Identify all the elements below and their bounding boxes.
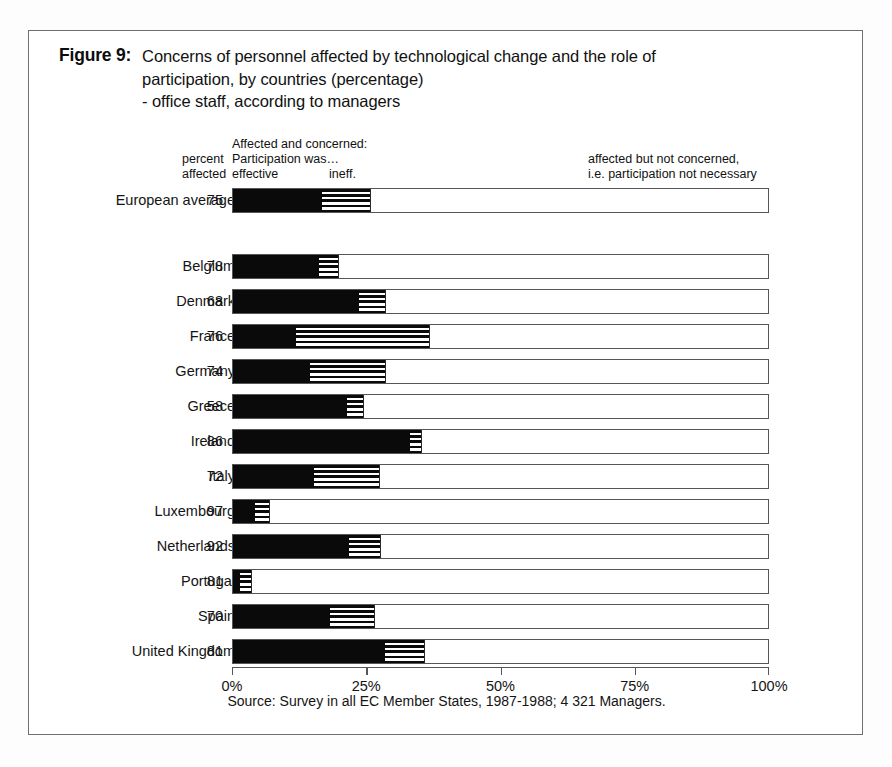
legend-participation-was: Participation was… <box>232 152 339 167</box>
chart-row: Greece58 <box>29 392 864 422</box>
bar-segment-effective <box>233 640 385 663</box>
bar-segment-ineffective <box>319 255 339 278</box>
row-percent-affected: 70 <box>195 608 223 624</box>
stacked-bar <box>232 254 769 279</box>
bar-segment-ineffective <box>330 605 375 628</box>
bar-segment-ineffective <box>349 535 381 558</box>
bar-segment-ineffective <box>314 465 381 488</box>
chart-row: United Kingdom81 <box>29 637 864 667</box>
bar-segment-effective <box>233 290 359 313</box>
stacked-bar <box>232 188 769 213</box>
stacked-bar <box>232 394 769 419</box>
legend-percent-affected-line2: affected <box>182 167 226 182</box>
stacked-bar <box>232 359 769 384</box>
scanned-page: Figure 9: Concerns of personnel affected… <box>0 0 892 767</box>
bar-segment-ineffective <box>410 430 422 453</box>
chart-row: Luxembourg97 <box>29 497 864 527</box>
bar-segment-ineffective <box>322 189 371 212</box>
x-axis-tick <box>768 667 769 675</box>
row-percent-affected: 81 <box>195 573 223 589</box>
source-note: Source: Survey in all EC Member States, … <box>29 693 864 709</box>
bar-segment-effective <box>233 325 296 348</box>
bar-segment-effective <box>233 430 410 453</box>
bar-segment-effective <box>233 465 314 488</box>
chart-row: Spain70 <box>29 602 864 632</box>
bar-segment-effective <box>233 395 347 418</box>
x-axis-tick-label: 25% <box>352 678 381 694</box>
bar-segment-effective <box>233 360 310 383</box>
stacked-bar <box>232 464 769 489</box>
chart-row: France76 <box>29 322 864 352</box>
x-axis-tick <box>366 667 367 675</box>
bar-segment-effective <box>233 255 319 278</box>
stacked-bar <box>232 569 769 594</box>
bar-segment-effective <box>233 570 240 593</box>
x-axis-tick <box>232 667 233 675</box>
stacked-bar <box>232 604 769 629</box>
stacked-bar <box>232 429 769 454</box>
chart-row: Germany74 <box>29 357 864 387</box>
bar-segment-effective <box>233 500 255 523</box>
x-axis-tick <box>635 667 636 675</box>
chart-row: Denmark68 <box>29 287 864 317</box>
x-axis-tick-label: 100% <box>750 678 787 694</box>
row-percent-affected: 58 <box>195 398 223 414</box>
x-axis-tick-label: 50% <box>486 678 515 694</box>
x-axis-tick-label: 75% <box>620 678 649 694</box>
legend-effective: effective <box>232 167 278 182</box>
row-percent-affected: 78 <box>195 258 223 274</box>
chart-legend: percent affected Affected and concerned:… <box>29 135 864 183</box>
bar-segment-effective <box>233 605 330 628</box>
bar-segment-ineffective <box>310 360 386 383</box>
bar-segment-ineffective <box>255 500 270 523</box>
bar-segment-ineffective <box>359 290 386 313</box>
legend-not-concerned-line1: affected but not concerned, <box>588 152 739 167</box>
chart-row: Portugal81 <box>29 567 864 597</box>
legend-affected-and-concerned: Affected and concerned: <box>232 137 367 152</box>
bar-segment-ineffective <box>240 570 252 593</box>
legend-not-concerned-line2: i.e. participation not necessary <box>588 167 757 182</box>
stacked-bar <box>232 534 769 559</box>
bar-segment-ineffective <box>385 640 425 663</box>
bar-segment-ineffective <box>347 395 364 418</box>
row-percent-affected: 75 <box>195 192 223 208</box>
row-percent-affected: 76 <box>195 328 223 344</box>
figure-frame: Figure 9: Concerns of personnel affected… <box>28 30 863 735</box>
bar-segment-effective <box>233 535 349 558</box>
x-axis-tick-label: 0% <box>222 678 243 694</box>
row-percent-affected: 81 <box>195 643 223 659</box>
chart-row: European average75 <box>29 186 864 216</box>
legend-percent-affected-line1: percent <box>182 152 224 167</box>
stacked-bar <box>232 639 769 664</box>
chart-row: Netherlands92 <box>29 532 864 562</box>
chart-row: Belgium78 <box>29 252 864 282</box>
row-percent-affected: 74 <box>195 363 223 379</box>
row-percent-affected: 92 <box>195 538 223 554</box>
chart-row: Ireland86 <box>29 427 864 457</box>
stacked-bar <box>232 499 769 524</box>
chart-plot-area: percent affected Affected and concerned:… <box>29 31 864 736</box>
row-percent-affected: 68 <box>195 293 223 309</box>
row-percent-affected: 72 <box>195 468 223 484</box>
legend-ineffective: ineff. <box>329 167 356 182</box>
stacked-bar <box>232 289 769 314</box>
bar-segment-ineffective <box>296 325 430 348</box>
x-axis-tick <box>501 667 502 675</box>
chart-row: Italy72 <box>29 462 864 492</box>
stacked-bar <box>232 324 769 349</box>
row-percent-affected: 97 <box>195 503 223 519</box>
row-percent-affected: 86 <box>195 433 223 449</box>
bar-segment-effective <box>233 189 322 212</box>
